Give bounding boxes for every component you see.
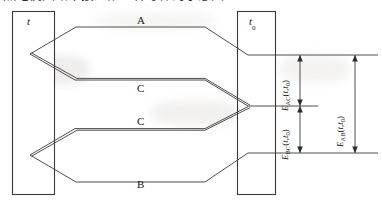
conductor-a-label: A — [137, 14, 145, 26]
conductor-c-upper-path-inner — [32, 53, 250, 105]
emf-ab-arrowhead-bottom — [352, 147, 358, 154]
diagram-vector — [0, 0, 382, 206]
emf-bc-label: EBC(t,t0) — [280, 129, 290, 160]
emf-ab-label: EAB(t,t0) — [335, 116, 345, 147]
hot-junction-box — [13, 12, 55, 195]
conductor-a-path — [30, 27, 248, 55]
reference-junction-subscript: 0 — [252, 24, 256, 32]
emf-bc-arrowhead-bottom — [297, 147, 303, 154]
conductor-b-label: B — [137, 178, 144, 190]
figure-canvas: 热电偶回路中接入第三种导体的示意图 — [0, 0, 382, 206]
hot-junction-label: t — [27, 15, 30, 27]
conductor-c-upper-label: C — [137, 82, 144, 94]
conductor-c-lower-path-outer — [30, 107, 248, 155]
emf-ac-arrowhead-top — [297, 55, 303, 62]
conductor-c-lower-label: C — [137, 115, 144, 127]
emf-ac-arrowhead-bottom — [297, 100, 303, 107]
emf-bc-arrowhead-top — [297, 106, 303, 113]
emf-ab-arrowhead-top — [352, 55, 358, 62]
reference-junction-label: t0 — [249, 15, 256, 30]
emf-ac-label: EAC(t,t0) — [280, 80, 290, 111]
conductor-c-upper-path-outer — [30, 54, 248, 106]
